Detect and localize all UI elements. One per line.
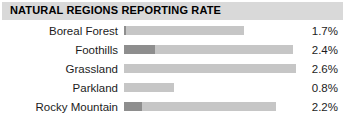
- bar-chart-rows: Boreal Forest1.7%Foothills2.4%Grassland2…: [0, 22, 345, 117]
- chart-row-value: 2.2%: [290, 100, 338, 115]
- chart-row-label: Rocky Mountain: [0, 100, 118, 115]
- chart-row-label: Parkland: [0, 81, 118, 96]
- chart-row-bar-track: [124, 64, 300, 73]
- chart-row-value: 2.6%: [290, 62, 338, 77]
- chart-row: Rocky Mountain2.2%: [0, 98, 345, 117]
- chart-row-bar-track: [124, 45, 300, 54]
- chart-row-value: 0.8%: [290, 81, 338, 96]
- chart-row-bar-lead-segment: [124, 45, 155, 54]
- chart-row-bar: [124, 102, 276, 111]
- chart-row-label: Foothills: [0, 43, 118, 58]
- chart-row: Foothills2.4%: [0, 41, 345, 60]
- chart-row-value: 1.7%: [290, 24, 338, 39]
- chart-row-bar-lead-segment: [124, 102, 142, 111]
- chart-row-value: 2.4%: [290, 43, 338, 58]
- chart-row-label: Boreal Forest: [0, 24, 118, 39]
- chart-row: Grassland2.6%: [0, 60, 345, 79]
- chart-row: Parkland0.8%: [0, 79, 345, 98]
- reporting-rate-panel: NATURAL REGIONS REPORTING RATE Boreal Fo…: [0, 0, 345, 133]
- chart-row-bar: [124, 83, 174, 92]
- chart-row-bar-track: [124, 102, 300, 111]
- chart-row-bar-lead-segment: [124, 26, 126, 35]
- chart-row-bar-track: [124, 83, 300, 92]
- chart-row-bar-track: [124, 26, 300, 35]
- chart-row-label: Grassland: [0, 62, 118, 77]
- chart-row-bar: [124, 64, 296, 73]
- chart-row-bar: [124, 26, 244, 35]
- panel-title: NATURAL REGIONS REPORTING RATE: [10, 3, 221, 17]
- chart-row: Boreal Forest1.7%: [0, 22, 345, 41]
